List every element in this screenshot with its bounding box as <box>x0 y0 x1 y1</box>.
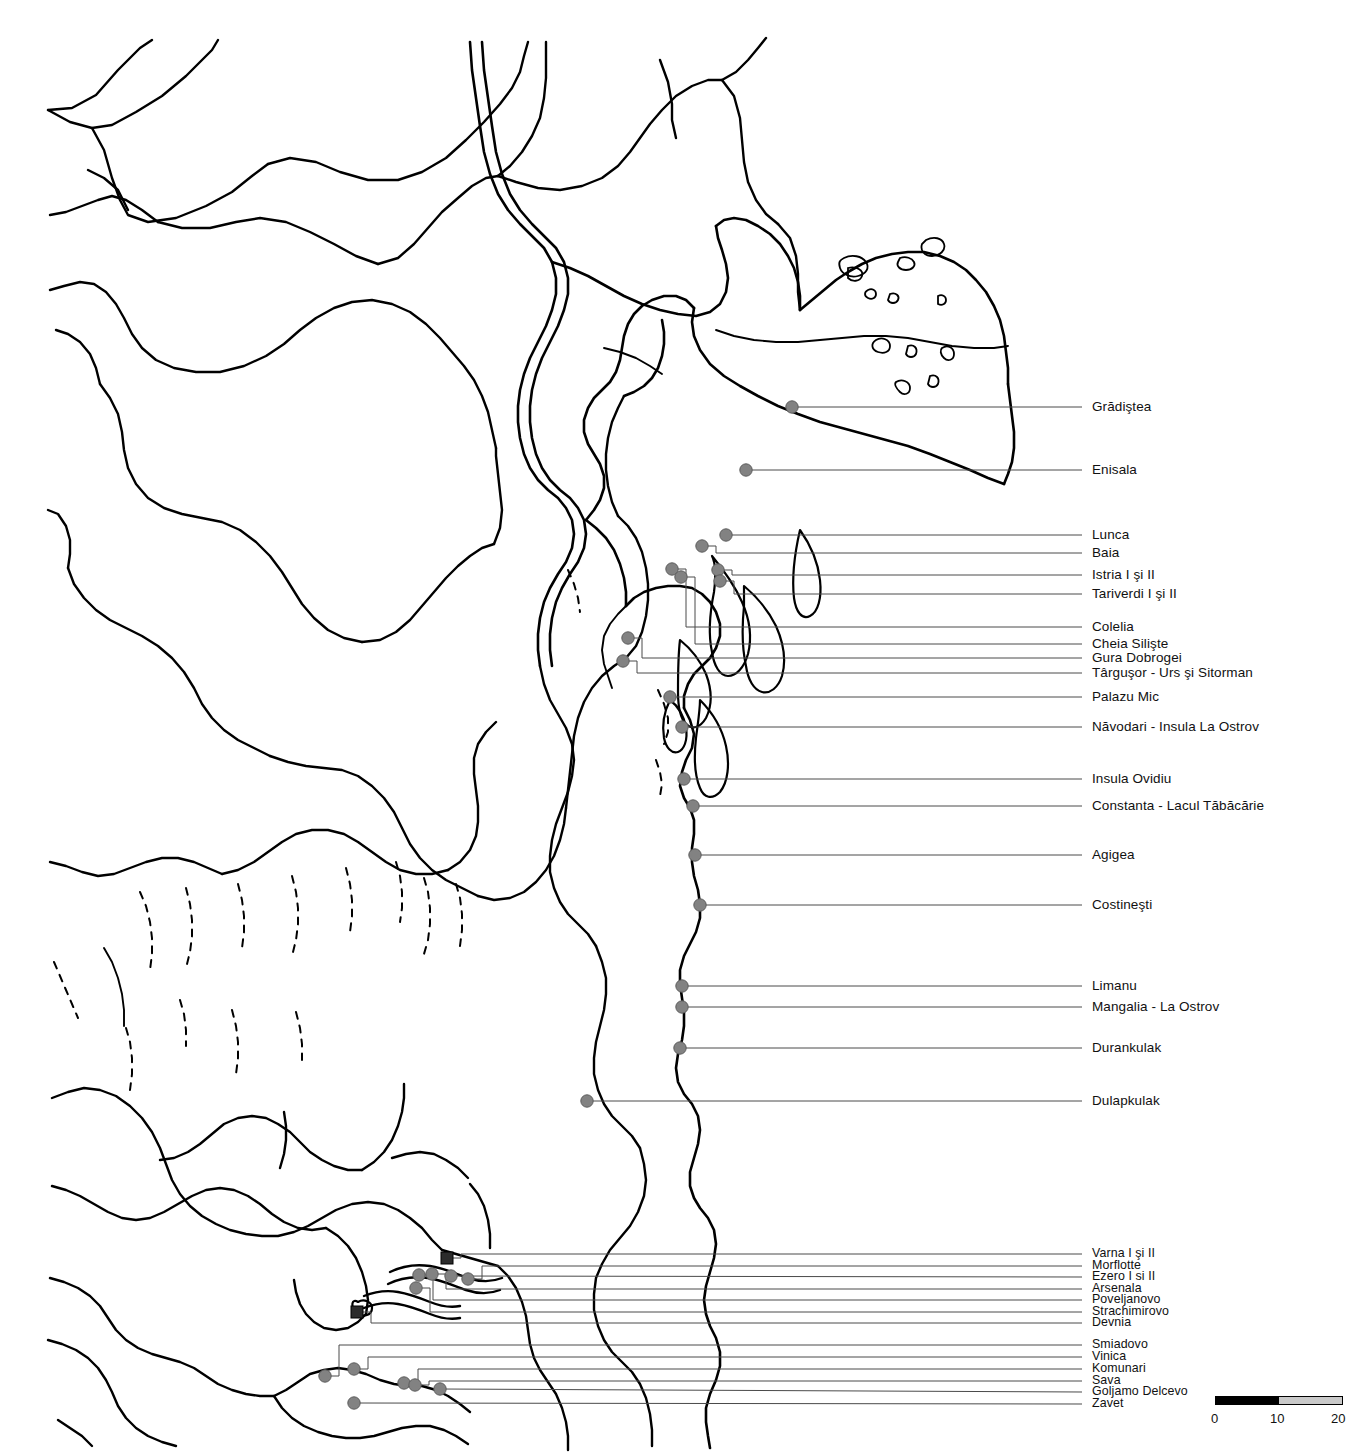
site-label: Mangalia - La Ostrov <box>1092 1000 1219 1014</box>
site-marker-dot[interactable] <box>398 1377 410 1389</box>
site-marker-dot[interactable] <box>462 1273 474 1285</box>
site-marker-dot[interactable] <box>410 1282 422 1294</box>
scale-segment-black <box>1216 1397 1279 1404</box>
leader-line <box>681 577 1082 644</box>
site-label: Colelia <box>1092 620 1134 634</box>
leader-line <box>702 546 1082 553</box>
leader-line <box>415 1381 1082 1385</box>
leader-line <box>357 1312 1082 1323</box>
map-figure: GrădişteaEnisalaLuncaBaiaIstria I şi IIT… <box>0 0 1361 1453</box>
site-marker-dot[interactable] <box>678 773 690 785</box>
leader-line <box>325 1345 1082 1376</box>
site-label: Năvodari - Insula La Ostrov <box>1092 720 1259 734</box>
leader-line <box>718 570 1082 575</box>
site-marker-dot[interactable] <box>409 1379 421 1391</box>
site-label: Dulapkulak <box>1092 1094 1160 1108</box>
site-label: Gura Dobrogei <box>1092 651 1182 665</box>
scale-tick-0: 0 <box>1211 1411 1218 1426</box>
site-label: Devnia <box>1092 1316 1131 1328</box>
site-marker-dot[interactable] <box>687 800 699 812</box>
site-marker-dot[interactable] <box>694 899 706 911</box>
dobrogea-inland-rivers <box>568 570 668 796</box>
site-marker-dot[interactable] <box>696 540 708 552</box>
site-label: Lunca <box>1092 528 1129 542</box>
site-label: Costineşti <box>1092 898 1152 912</box>
leader-line <box>447 1254 1082 1258</box>
site-label: Insula Ovidiu <box>1092 772 1171 786</box>
site-marker-dot[interactable] <box>786 401 798 413</box>
site-label: Durankulak <box>1092 1041 1161 1055</box>
site-marker-dot[interactable] <box>720 529 732 541</box>
site-label: Limanu <box>1092 979 1137 993</box>
site-marker-dot[interactable] <box>426 1268 438 1280</box>
site-marker-dot[interactable] <box>413 1269 425 1281</box>
scale-tick-20: 20 <box>1331 1411 1345 1426</box>
site-label: Palazu Mic <box>1092 690 1159 704</box>
site-label: Agigea <box>1092 848 1135 862</box>
danube-main-channel <box>470 42 652 1446</box>
scale-bar: 0 10 20 <box>1215 1396 1347 1444</box>
scale-bar-track <box>1215 1396 1343 1405</box>
site-marker-dot[interactable] <box>676 980 688 992</box>
site-marker-dot[interactable] <box>319 1370 331 1382</box>
site-marker-dot[interactable] <box>348 1397 360 1409</box>
scale-tick-10: 10 <box>1270 1411 1284 1426</box>
site-marker-dot[interactable] <box>714 575 726 587</box>
site-label: Istria I şi II <box>1092 568 1155 582</box>
site-marker-dot[interactable] <box>676 721 688 733</box>
site-label: Constanta - Lacul Tăbăcărie <box>1092 799 1264 813</box>
site-label: Tariverdi I şi II <box>1092 587 1177 601</box>
leader-line <box>354 1357 1082 1369</box>
leader-line <box>354 1403 1082 1404</box>
site-marker-dot[interactable] <box>712 564 724 576</box>
site-label: Târguşor - Urs şi Sitorman <box>1092 666 1253 680</box>
site-marker-dot[interactable] <box>740 464 752 476</box>
site-marker-dot[interactable] <box>434 1383 446 1395</box>
site-marker-dot[interactable] <box>617 655 629 667</box>
site-marker-dot[interactable] <box>348 1363 360 1375</box>
site-label: Grădiştea <box>1092 400 1151 414</box>
site-marker-dot[interactable] <box>581 1095 593 1107</box>
bulgaria-river-network <box>48 722 568 1450</box>
site-marker-dot[interactable] <box>675 571 687 583</box>
site-label: Cheia Silişte <box>1092 637 1168 651</box>
leader-line <box>623 661 1082 673</box>
scale-segment-gray <box>1279 1397 1342 1404</box>
site-label: Baia <box>1092 546 1119 560</box>
site-marker-dot[interactable] <box>445 1270 457 1282</box>
site-label: Zavet <box>1092 1397 1124 1409</box>
site-marker-dot[interactable] <box>689 849 701 861</box>
site-label: Enisala <box>1092 463 1137 477</box>
site-marker-dot[interactable] <box>674 1042 686 1054</box>
leader-line <box>672 569 1082 627</box>
site-marker-square[interactable] <box>441 1252 453 1264</box>
site-marker-dot[interactable] <box>676 1001 688 1013</box>
site-marker-dot[interactable] <box>664 691 676 703</box>
leader-line <box>451 1276 1082 1277</box>
river-network-northwest <box>48 38 800 900</box>
leader-line <box>720 581 1082 594</box>
leader-line <box>440 1389 1082 1392</box>
site-marker-square[interactable] <box>351 1306 363 1318</box>
site-marker-dot[interactable] <box>622 632 634 644</box>
